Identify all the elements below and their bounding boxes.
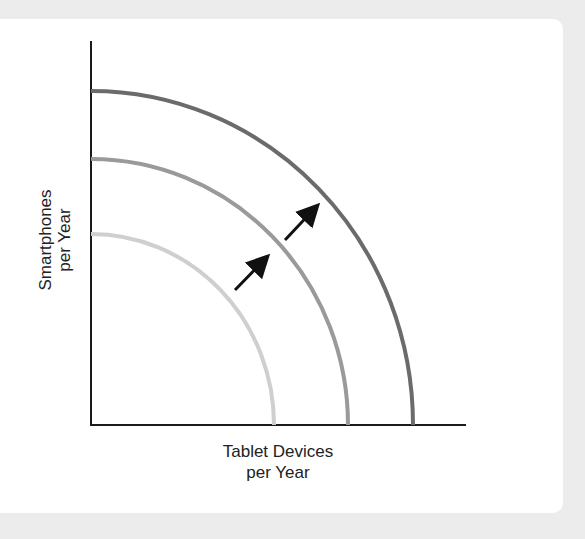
shift-arrow-1 [235,258,266,290]
y-axis-label-line2: per Year [55,160,74,320]
shift-arrow-2 [285,207,316,240]
middle-ppf-curve [91,159,348,425]
x-axis-label: Tablet Devices per Year [178,441,378,483]
y-axis-label-line1: Smartphones [36,160,55,320]
inner-ppf-curve [91,234,274,425]
x-axis-label-line2: per Year [178,462,378,483]
y-axis-label: Smartphones per Year [36,160,76,320]
x-axis-label-line1: Tablet Devices [178,441,378,462]
outer-ppf-curve [91,91,413,425]
